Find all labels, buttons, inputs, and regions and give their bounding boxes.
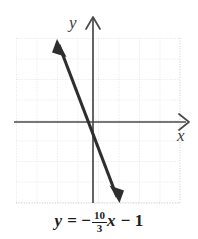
plot-area: y x bbox=[0, 0, 198, 212]
equation-constant: 1 bbox=[135, 211, 144, 231]
x-axis-label: x bbox=[177, 127, 185, 144]
equation-equals-sign: = bbox=[63, 211, 81, 231]
y-axis-label: y bbox=[69, 14, 77, 31]
equation-operator: − bbox=[117, 211, 135, 231]
equation-caption: y = − 10 3 x − 1 bbox=[0, 209, 198, 239]
equation-minus-sign: − bbox=[81, 211, 92, 231]
coordinate-plane-svg bbox=[0, 0, 198, 212]
graph-figure: y x y = − 10 3 x − 1 bbox=[0, 0, 198, 239]
equation-denominator: 3 bbox=[96, 223, 104, 234]
equation-expression: y = − 10 3 x − 1 bbox=[55, 209, 144, 233]
equation-lhs-variable: y bbox=[55, 211, 64, 231]
equation-numerator: 10 bbox=[93, 210, 106, 221]
equation-fraction: 10 3 bbox=[92, 210, 107, 234]
grid-lines bbox=[16, 38, 180, 203]
equation-variable: x bbox=[107, 211, 117, 231]
